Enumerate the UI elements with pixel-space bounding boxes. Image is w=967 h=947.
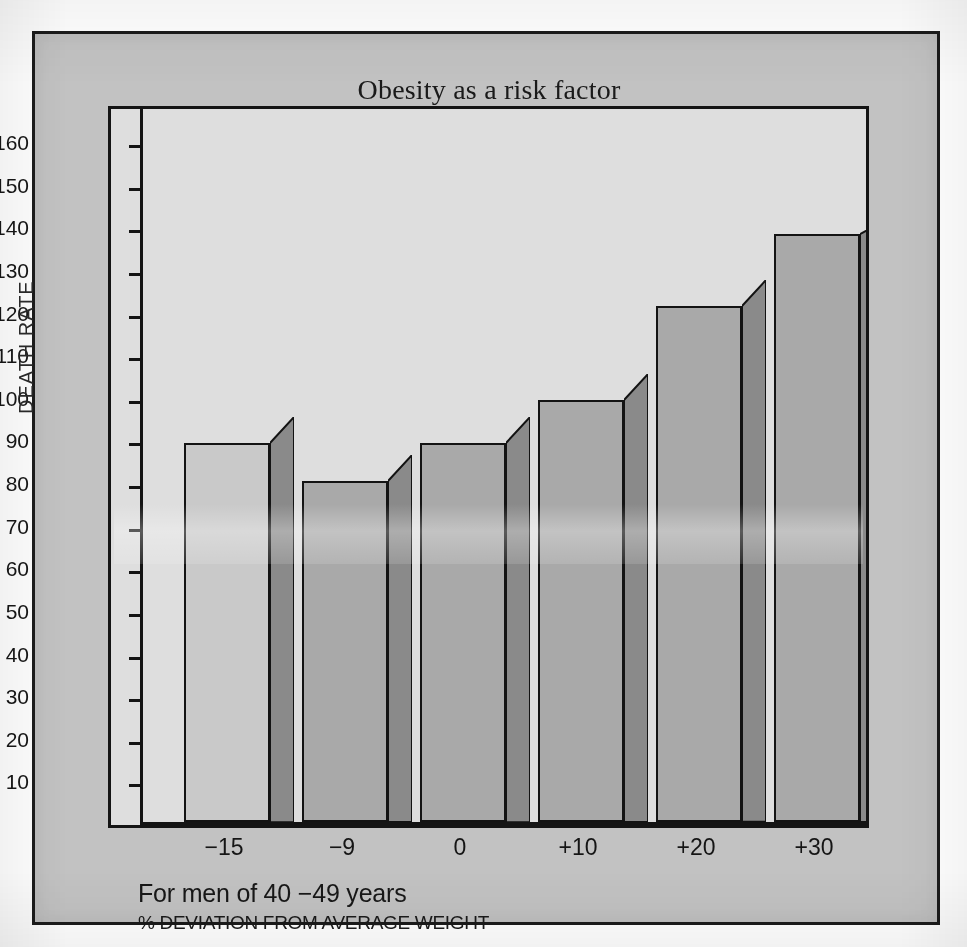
y-axis-tick [129,358,143,361]
bar-side-face [742,280,766,822]
y-axis-tick [129,614,143,617]
page-title: Obesity as a risk factor [35,74,943,106]
figure-scene: Obesity as a risk factor 102030405060708… [0,0,967,947]
y-axis-tick [129,230,143,233]
caption-primary: For men of 40 −49 years [138,879,489,908]
y-axis-tick-label: 70 [6,515,29,539]
x-axis-tick-label: 0 [454,834,467,861]
caption-block: For men of 40 −49 years % DEVIATION FROM… [138,879,489,934]
bar-front-face [420,443,506,822]
y-axis-tick [129,401,143,404]
y-axis-tick-label: 150 [0,174,29,198]
x-axis-tick-label: −15 [204,834,243,861]
y-axis-tick [129,784,143,787]
bar-side-face [624,374,648,822]
y-axis-tick-label: 60 [6,557,29,581]
y-axis-tick [129,145,143,148]
bar-side-face [270,417,294,822]
y-axis-tick-label: 90 [6,429,29,453]
y-axis-tick [129,188,143,191]
bar-side-face [860,208,866,822]
bar [656,280,766,822]
bar-front-face [538,400,624,822]
y-axis-tick-label: 80 [6,472,29,496]
caption-secondary: % DEVIATION FROM AVERAGE WEIGHT [138,912,489,934]
figure-outer-frame: Obesity as a risk factor 102030405060708… [32,31,940,925]
plot-panel [108,106,869,828]
bar-front-face [656,306,742,822]
x-axis-tick-label: −9 [329,834,355,861]
y-axis-tick-label: 50 [6,600,29,624]
bar [538,374,648,822]
plot-area [111,109,866,825]
bar-side-face [506,417,530,822]
y-axis-tick-label: 20 [6,728,29,752]
y-axis-tick-label: 10 [6,770,29,794]
bar-front-face [774,234,860,822]
bar [302,455,412,822]
bar [184,417,294,822]
y-axis-tick-label: 160 [0,131,29,155]
y-axis-tick [129,742,143,745]
y-axis-tick [129,699,143,702]
x-axis-tick-label: +30 [794,834,833,861]
y-axis-title: DEATH RATE [15,280,38,414]
y-axis-tick [129,443,143,446]
bar-front-face [302,481,388,822]
y-axis-tick [129,529,143,532]
y-axis-line [140,109,143,825]
y-tick-labels: 102030405060708090100110120130140150160 [0,106,29,828]
x-tick-labels: −15−90+10+20+30 [108,834,869,868]
y-axis-tick-label: 40 [6,643,29,667]
y-axis-tick-label: 140 [0,216,29,240]
y-axis-tick [129,316,143,319]
y-axis-tick [129,571,143,574]
bar [774,208,866,822]
bar [420,417,530,822]
x-axis-tick-label: +10 [558,834,597,861]
y-axis-tick [129,486,143,489]
y-axis-tick-label: 30 [6,685,29,709]
bar-front-face [184,443,270,822]
y-axis-tick [129,657,143,660]
bar-side-face [388,455,412,822]
x-axis-tick-label: +20 [676,834,715,861]
y-axis-tick [129,273,143,276]
x-axis-line [140,822,866,825]
